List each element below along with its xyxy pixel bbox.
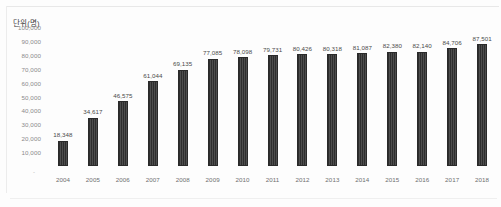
- bar-group[interactable]: 80,426: [288, 27, 318, 166]
- bar-value-label: 77,085: [203, 49, 222, 56]
- bar-group[interactable]: 82,140: [407, 27, 437, 166]
- bar-value-label: 82,380: [383, 42, 402, 49]
- x-axis-tick: 2010: [228, 168, 258, 182]
- bar-value-label: 84,706: [443, 39, 462, 46]
- x-axis-tick: 2016: [407, 168, 437, 182]
- x-axis-tick-label: 2014: [355, 176, 369, 183]
- bar[interactable]: [58, 141, 68, 167]
- bar-group[interactable]: 82,380: [377, 27, 407, 166]
- plot-area: 18,34834,61746,57561,04469,13577,08578,0…: [48, 27, 497, 166]
- bar[interactable]: [238, 57, 248, 166]
- bar-value-label: 34,617: [83, 108, 102, 115]
- bar-group[interactable]: 18,348: [48, 27, 78, 166]
- x-axis-tick-label: 2010: [236, 176, 250, 183]
- bar[interactable]: [297, 54, 307, 166]
- x-axis-tick: 2007: [138, 168, 168, 182]
- bar[interactable]: [178, 70, 188, 166]
- bar-value-label: 82,140: [413, 42, 432, 49]
- x-axis-tick: 2004: [48, 168, 78, 182]
- bar-group[interactable]: 69,135: [168, 27, 198, 166]
- x-axis-tick-label: 2016: [415, 176, 429, 183]
- x-axis-tick: 2012: [288, 168, 318, 182]
- x-axis-tick-label: 2004: [56, 176, 70, 183]
- x-axis-tick: 2011: [258, 168, 288, 182]
- x-axis-tick-label: 2015: [385, 176, 399, 183]
- bar[interactable]: [417, 52, 427, 166]
- y-axis-tick-label: 30,000: [21, 121, 41, 128]
- x-axis-tick-label: 2013: [325, 176, 339, 183]
- bar-group[interactable]: 84,706: [437, 27, 467, 166]
- y-axis-tick-label: 60,000: [21, 79, 41, 86]
- bar-group[interactable]: 61,044: [138, 27, 168, 166]
- chart-top-border: [6, 6, 499, 7]
- bar[interactable]: [88, 118, 98, 166]
- bar-value-label: 78,098: [233, 48, 252, 55]
- y-axis-tick-label: 100,000: [18, 24, 41, 31]
- chart-bottom-border: [10, 198, 497, 199]
- bar[interactable]: [148, 81, 158, 166]
- y-axis-tick-label: 10,000: [21, 149, 41, 156]
- x-axis-tick-label: 2017: [445, 176, 459, 183]
- bar[interactable]: [477, 44, 487, 166]
- y-axis-tick-label: 20,000: [21, 135, 41, 142]
- y-axis-tick-label: 50,000: [21, 93, 41, 100]
- y-axis-tick-label: 40,000: [21, 107, 41, 114]
- bar-group[interactable]: 87,501: [467, 27, 497, 166]
- bar[interactable]: [268, 55, 278, 166]
- x-axis-tick: 2008: [168, 168, 198, 182]
- bar-group[interactable]: 79,731: [258, 27, 288, 166]
- x-axis-tick: 2015: [377, 168, 407, 182]
- x-axis: 2004200520062007200820092010201120122013…: [48, 168, 497, 182]
- x-axis-tick-label: 2018: [475, 176, 489, 183]
- bar-chart: 단위(명) - 100,00090,00080,00070,00060,0005…: [0, 0, 501, 207]
- y-axis-tick-label: 80,000: [21, 51, 41, 58]
- x-axis-tick: 2009: [198, 168, 228, 182]
- x-axis-tick: 2017: [437, 168, 467, 182]
- bar[interactable]: [447, 48, 457, 166]
- bar[interactable]: [118, 101, 128, 166]
- bar[interactable]: [357, 53, 367, 166]
- bar[interactable]: [208, 59, 218, 166]
- bar-group[interactable]: 34,617: [78, 27, 108, 166]
- x-axis-tick: 2018: [467, 168, 497, 182]
- x-axis-tick-label: 2009: [206, 176, 220, 183]
- bar-value-label: 80,318: [323, 45, 342, 52]
- bar-group[interactable]: 81,087: [347, 27, 377, 166]
- x-axis-tick-label: 2007: [146, 176, 160, 183]
- x-axis-tick-label: 2005: [86, 176, 100, 183]
- bar-value-label: 18,348: [53, 131, 72, 138]
- x-axis-tick: 2014: [347, 168, 377, 182]
- x-axis-tick-label: 2008: [176, 176, 190, 183]
- bar-group[interactable]: 80,318: [317, 27, 347, 166]
- bar-value-label: 61,044: [143, 72, 162, 79]
- bar-group[interactable]: 77,085: [198, 27, 228, 166]
- bar-value-label: 87,501: [472, 35, 491, 42]
- bar-value-label: 46,575: [113, 92, 132, 99]
- x-axis-tick-label: 2012: [295, 176, 309, 183]
- x-axis-tick: 2013: [317, 168, 347, 182]
- x-axis-tick: 2005: [78, 168, 108, 182]
- bar-value-label: 69,135: [173, 60, 192, 67]
- bar-value-label: 81,087: [353, 44, 372, 51]
- x-axis-tick-label: 2011: [266, 176, 280, 183]
- y-axis-tick-label: 90,000: [21, 37, 41, 44]
- y-axis-tick-label: 70,000: [21, 65, 41, 72]
- y-axis-zero-mark: -: [33, 168, 35, 175]
- bar[interactable]: [387, 52, 397, 167]
- bar[interactable]: [327, 54, 337, 166]
- y-axis: - 100,00090,00080,00070,00060,00050,0004…: [0, 27, 48, 166]
- bar-value-label: 80,426: [293, 45, 312, 52]
- x-axis-tick-label: 2006: [116, 176, 130, 183]
- bar-value-label: 79,731: [263, 46, 282, 53]
- bar-group[interactable]: 46,575: [108, 27, 138, 166]
- bar-group[interactable]: 78,098: [228, 27, 258, 166]
- x-axis-tick: 2006: [108, 168, 138, 182]
